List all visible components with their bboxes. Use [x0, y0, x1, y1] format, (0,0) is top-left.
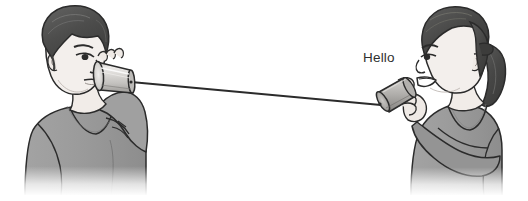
- scene-artwork: [0, 0, 528, 201]
- connecting-string: [131, 82, 381, 105]
- girl-head: [416, 7, 493, 93]
- speech-text-hello: Hello: [363, 50, 395, 66]
- connecting-string-group: [131, 82, 381, 105]
- illustration-canvas: Hello: [0, 0, 528, 201]
- girl-figure: [360, 7, 520, 196]
- tin-can-left: [93, 61, 136, 93]
- boy-figure: [14, 6, 164, 196]
